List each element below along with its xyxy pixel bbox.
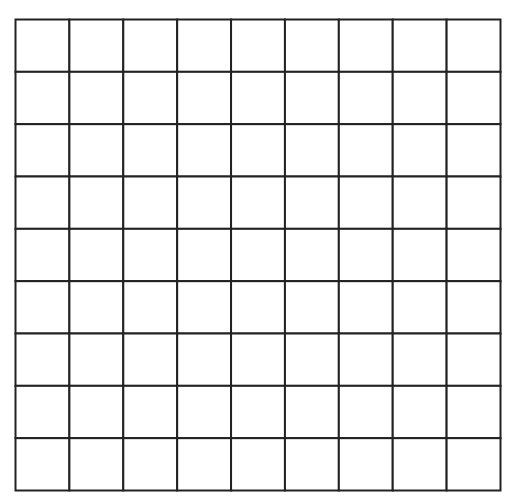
grid-cell: [177, 72, 231, 124]
grid-cell: [16, 20, 70, 72]
grid-cell: [177, 281, 231, 333]
grid-cell: [393, 334, 447, 386]
grid-cell: [447, 334, 501, 386]
grid-cell: [285, 386, 339, 438]
grid-cell: [231, 229, 285, 281]
grid-cell: [69, 438, 123, 490]
grid-cell: [285, 281, 339, 333]
empty-grid: [0, 0, 510, 501]
grid-cell: [339, 72, 393, 124]
grid-cell: [285, 72, 339, 124]
grid-cell: [339, 438, 393, 490]
grid-cell: [177, 438, 231, 490]
grid-cell: [231, 177, 285, 229]
grid-cell: [285, 229, 339, 281]
grid-cell: [123, 281, 177, 333]
grid-cell: [393, 229, 447, 281]
grid-cell: [285, 20, 339, 72]
grid-cell: [339, 229, 393, 281]
grid-cell: [285, 438, 339, 490]
grid-cell: [123, 334, 177, 386]
grid-cell: [69, 229, 123, 281]
grid-cell: [231, 72, 285, 124]
grid-cell: [447, 20, 501, 72]
grid-cell: [16, 177, 70, 229]
grid-cell: [339, 20, 393, 72]
grid-cell: [447, 386, 501, 438]
grid-cell: [123, 438, 177, 490]
grid-cell: [393, 281, 447, 333]
grid-cell: [16, 124, 70, 176]
grid-cell: [447, 124, 501, 176]
grid-cell: [69, 124, 123, 176]
grid-cell: [16, 334, 70, 386]
grid-cell: [69, 72, 123, 124]
grid-cell: [231, 386, 285, 438]
grid-cell: [123, 229, 177, 281]
grid-cell: [339, 177, 393, 229]
grid-cell: [339, 281, 393, 333]
grid-cell: [69, 386, 123, 438]
grid-cell: [339, 124, 393, 176]
grid-cell: [285, 177, 339, 229]
grid-cell: [393, 177, 447, 229]
grid-cell: [16, 72, 70, 124]
grid-cell: [177, 124, 231, 176]
grid-cell: [123, 386, 177, 438]
grid-cell: [393, 72, 447, 124]
grid-cell: [447, 438, 501, 490]
grid-cell: [393, 124, 447, 176]
grid-cell: [393, 386, 447, 438]
grid-cell: [123, 124, 177, 176]
grid-cell: [16, 438, 70, 490]
grid-cell: [231, 124, 285, 176]
grid-cell: [393, 438, 447, 490]
grid-cell: [16, 386, 70, 438]
grid-cell: [16, 229, 70, 281]
grid-cell: [447, 177, 501, 229]
grid-cell: [339, 386, 393, 438]
grid-cell: [231, 281, 285, 333]
grid-cell: [123, 20, 177, 72]
grid-cell: [123, 72, 177, 124]
grid-cell: [177, 177, 231, 229]
grid-cell: [69, 281, 123, 333]
grid-cell: [177, 386, 231, 438]
grid-cell: [447, 281, 501, 333]
grid-cell: [285, 334, 339, 386]
grid-cell: [69, 334, 123, 386]
grid-cell: [123, 177, 177, 229]
grid-cell: [339, 334, 393, 386]
grid-cell: [231, 20, 285, 72]
grid-cell: [447, 229, 501, 281]
grid-cell: [231, 334, 285, 386]
grid-cell: [177, 229, 231, 281]
grid-cell: [16, 281, 70, 333]
grid-cell: [393, 20, 447, 72]
grid-cell: [177, 334, 231, 386]
grid-cell: [231, 438, 285, 490]
grid-cell: [69, 20, 123, 72]
grid-cell: [177, 20, 231, 72]
grid-cell: [447, 72, 501, 124]
grid-cell: [69, 177, 123, 229]
grid-cell: [285, 124, 339, 176]
